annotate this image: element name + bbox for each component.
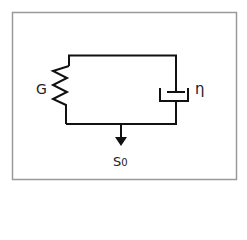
load-label: S0 (113, 154, 128, 169)
dashpot-label: η (195, 80, 205, 98)
dashpot-icon (160, 88, 188, 101)
arrow-down-icon (115, 137, 127, 146)
top-wire (69, 56, 176, 89)
spring-icon (53, 66, 69, 124)
load-label-sub: 0 (121, 157, 127, 168)
spring-label: G (36, 81, 47, 97)
bottom-wire (66, 101, 176, 124)
